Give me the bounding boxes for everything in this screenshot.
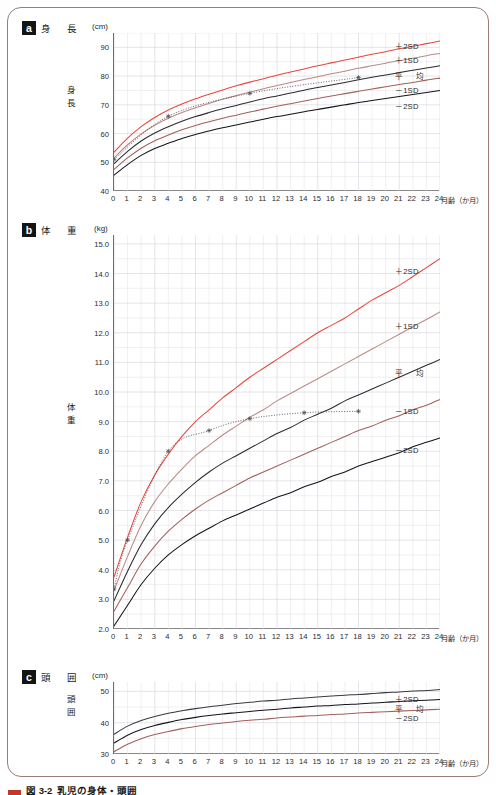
height-chart-y-tick: 50	[79, 158, 109, 167]
weight-chart-x-tick: 16	[326, 632, 334, 641]
weight-chart-x-tick: 17	[340, 632, 348, 641]
panel-c-badge: c	[22, 670, 36, 684]
weight-chart-x-tick: 5	[179, 632, 183, 641]
weight-chart-x-tick: 15	[313, 632, 321, 641]
weight-chart-x-tick: 21	[394, 632, 402, 641]
weight-chart-x-tick: 8	[220, 632, 224, 641]
head-chart-x-tick: 15	[313, 757, 321, 766]
height-chart-canvas	[114, 33, 440, 191]
panel-c-x-caption: 月齢（か月）	[441, 757, 483, 768]
panel-b-x-caption: 月齢（か月）	[441, 632, 483, 643]
height-chart-x-tick: 9	[233, 194, 237, 203]
weight-chart-y-tick: 12.0	[79, 328, 109, 337]
panel-c-header: c 頭 囲	[22, 670, 80, 684]
weight-chart-y-tick: 15.0	[79, 239, 109, 248]
panel-a-x-caption: 月齢（か月）	[441, 194, 483, 205]
height-chart-gridlines	[114, 33, 440, 191]
head-chart-y-tick: 50	[79, 687, 109, 696]
weight-chart-x-tick: 18	[353, 632, 361, 641]
weight-chart-x-tick: 2	[138, 632, 142, 641]
height-chart-x-tick: 1	[124, 194, 128, 203]
head-chart-x-tick: 5	[179, 757, 183, 766]
weight-chart-y-tick: 10.0	[79, 388, 109, 397]
height-chart-patient-marker	[166, 114, 171, 119]
head-chart-x-tick: 4	[165, 757, 169, 766]
height-chart-x-tick: 6	[192, 194, 196, 203]
weight-chart-legend-label: －1SD	[395, 405, 419, 416]
weight-chart-x-tick: 10	[245, 632, 253, 641]
panel-a-title: 身 長	[41, 21, 80, 35]
weight-chart-y-tick: 7.0	[79, 476, 109, 485]
panel-a-y-axis-name: 身長	[64, 84, 78, 110]
weight-chart-x-tick: 19	[367, 632, 375, 641]
head-chart-plot	[113, 682, 439, 754]
weight-chart-x-tick: 22	[408, 632, 416, 641]
weight-chart-x-tick: 0	[111, 632, 115, 641]
height-chart-legend-label: －2SD	[395, 100, 419, 111]
height-chart-y-tick: 80	[79, 72, 109, 81]
head-chart-x-tick: 21	[394, 757, 402, 766]
height-chart-y-tick: 90	[79, 43, 109, 52]
weight-chart-x-tick: 20	[380, 632, 388, 641]
weight-chart-y-tick: 6.0	[79, 506, 109, 515]
weight-chart-x-tick: 14	[299, 632, 307, 641]
height-chart-patient-marker	[356, 75, 361, 80]
head-chart-x-tick: 3	[152, 757, 156, 766]
height-chart-x-tick: 5	[179, 194, 183, 203]
weight-chart-y-tick: 14.0	[79, 269, 109, 278]
height-chart-plot	[113, 33, 439, 191]
height-chart-x-tick: 2	[138, 194, 142, 203]
height-chart-x-tick: 3	[152, 194, 156, 203]
panel-b-badge: b	[22, 223, 36, 237]
weight-chart-x-tick: 3	[152, 632, 156, 641]
height-chart-y-tick: 70	[79, 100, 109, 109]
head-chart-y-tick: 40	[79, 718, 109, 727]
head-chart-x-tick: 2	[138, 757, 142, 766]
panel-c-unit: (cm)	[92, 671, 108, 680]
head-chart-x-tick: 9	[233, 757, 237, 766]
height-chart-x-tick: 13	[285, 194, 293, 203]
height-chart-legend-label: 平 均	[395, 70, 427, 81]
weight-chart-legend-label: ＋1SD	[395, 320, 419, 331]
weight-chart-patient-marker	[207, 428, 212, 433]
head-chart-x-tick: 13	[285, 757, 293, 766]
weight-chart-plot	[113, 235, 439, 629]
head-chart-x-tick: 0	[111, 757, 115, 766]
head-chart-x-tick: 20	[380, 757, 388, 766]
head-chart-x-tick: 12	[272, 757, 280, 766]
height-chart-legend-label: －1SD	[395, 84, 419, 95]
weight-chart-x-tick: 13	[285, 632, 293, 641]
weight-chart-y-tick: 4.0	[79, 565, 109, 574]
height-chart-legend-label: ＋1SD	[395, 54, 419, 65]
weight-chart-patient-marker	[302, 410, 307, 415]
height-chart-patient-marker	[247, 91, 252, 96]
height-chart-y-tick: 40	[79, 187, 109, 196]
weight-chart-x-tick: 7	[206, 632, 210, 641]
weight-chart-legend-label: 平 均	[395, 367, 427, 378]
panel-c-title: 頭 囲	[41, 670, 80, 684]
panel-b-title: 体 重	[41, 223, 80, 237]
weight-chart-x-tick: 12	[272, 632, 280, 641]
weight-chart-gridlines	[114, 235, 440, 629]
height-chart-x-tick: 21	[394, 194, 402, 203]
panel-a-badge: a	[22, 21, 36, 35]
weight-chart-y-tick: 8.0	[79, 447, 109, 456]
height-chart-y-tick: 60	[79, 129, 109, 138]
head-chart-x-tick: 11	[258, 757, 266, 766]
weight-chart-y-tick: 11.0	[79, 358, 109, 367]
height-chart-x-tick: 14	[299, 194, 307, 203]
head-chart-x-tick: 23	[421, 757, 429, 766]
panel-weight: b 体 重 (kg) 体重 15.014.013.012.011.010.09.…	[0, 215, 496, 655]
head-chart-x-tick: 16	[326, 757, 334, 766]
weight-chart-y-tick: 9.0	[79, 417, 109, 426]
head-chart-x-tick: 8	[220, 757, 224, 766]
weight-chart-legend-label: －2SD	[395, 444, 419, 455]
height-chart-x-tick: 23	[421, 194, 429, 203]
panel-height: a 身 長 (cm) 身長 908070605040 0123456789101…	[0, 0, 496, 215]
weight-chart-x-tick: 23	[421, 632, 429, 641]
height-chart-x-tick: 0	[111, 194, 115, 203]
head-chart-x-tick: 17	[340, 757, 348, 766]
figure-caption: 図 3-2 乳児の身体・頭囲	[8, 783, 137, 795]
height-chart-x-tick: 18	[353, 194, 361, 203]
caption-marker	[8, 790, 21, 795]
